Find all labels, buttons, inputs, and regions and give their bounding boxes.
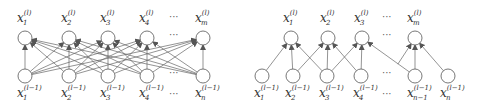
bottom-node [140, 69, 154, 83]
top-label: x(l)4 [139, 9, 154, 27]
bottom-label: x(l−1)1 [254, 84, 279, 102]
bottom-label: x(l−1)2 [285, 84, 310, 102]
top-node [355, 31, 369, 45]
diagram-canvas: x(l)1x(l)2x(l)3x(l)4x(l)mx(l−1)1x(l−1)2x… [0, 0, 477, 105]
edge-1-ellipsis-3 [398, 44, 411, 64]
bottom-node [286, 69, 300, 83]
top-label: x(l)3 [354, 9, 369, 27]
top-node [18, 31, 32, 45]
bottom-node [320, 69, 334, 83]
bottom-node [408, 69, 422, 83]
bottom-label: x(l−1)3 [319, 84, 344, 102]
bottom-label: x(l−1)n−1 [407, 84, 432, 102]
top-node [196, 31, 210, 45]
top-node [62, 31, 76, 45]
bottom-label: x(l−1)n [195, 84, 220, 102]
ellipsis: ··· [169, 29, 179, 40]
bottom-node [101, 69, 115, 83]
top-label: x(l)1 [17, 9, 32, 27]
edge-1-1-1 [298, 43, 324, 71]
top-label: x(l)3 [100, 9, 115, 27]
bottom-label: x(l−1)2 [61, 84, 86, 102]
bottom-node [62, 69, 76, 83]
bottom-node [354, 69, 368, 83]
edge-1-1-0 [291, 45, 292, 69]
top-label: x(l)m [407, 9, 422, 27]
bottom-label: x(l−1)1 [17, 84, 42, 102]
ellipsis: ··· [382, 67, 392, 78]
top-label: x(l)2 [61, 9, 76, 27]
ellipsis: ··· [169, 11, 179, 22]
top-label: x(l)2 [320, 9, 335, 27]
edge-1-3-2 [361, 45, 362, 69]
top-node [284, 31, 298, 45]
bottom-node [18, 69, 32, 83]
bottom-node [196, 69, 210, 83]
top-node [140, 31, 154, 45]
ellipsis: ··· [382, 88, 392, 99]
edge-1-2-0 [296, 43, 322, 71]
top-node [408, 31, 422, 45]
bottom-label: x(l−1)3 [100, 84, 125, 102]
edge-1-5-3 [420, 43, 444, 70]
top-label: x(l)1 [283, 9, 298, 27]
bottom-label: x(l−1)4 [353, 84, 378, 102]
bottom-node [441, 69, 455, 83]
bottom-label: x(l−1)n [440, 84, 465, 102]
top-node [321, 31, 335, 45]
ellipsis: ··· [382, 11, 392, 22]
ellipsis: ··· [169, 67, 179, 78]
bottom-label: x(l−1)4 [139, 84, 164, 102]
top-label: x(l)m [195, 9, 210, 27]
edge-1-2-1 [327, 45, 328, 69]
ellipsis: ··· [382, 29, 392, 40]
edge-1-2-2 [332, 43, 358, 71]
ellipsis: ··· [169, 88, 179, 99]
edge-1-0-0 [266, 44, 287, 71]
top-node [101, 31, 115, 45]
bottom-node [255, 69, 269, 83]
